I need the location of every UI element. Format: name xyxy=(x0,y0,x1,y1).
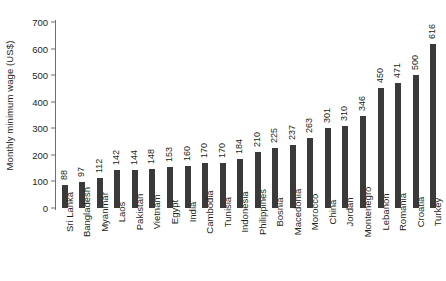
y-axis-tick-labels: 0100200300400500600700 xyxy=(0,0,56,281)
y-axis-tick-label: 700 xyxy=(32,17,48,28)
bar-item[interactable]: 153 xyxy=(161,16,179,208)
x-axis-category-label-slot: Turkey xyxy=(424,210,442,281)
bar-item[interactable]: 225 xyxy=(267,16,285,208)
x-axis-category-label-slot: Philippines xyxy=(249,210,267,281)
bar-chart: Monthly minimum wage (US$) 0100200300400… xyxy=(0,0,446,281)
bar-item[interactable]: 112 xyxy=(91,16,109,208)
bar-value-label: 210 xyxy=(253,132,262,147)
bar-item[interactable]: 301 xyxy=(319,16,337,208)
x-axis-category-label-slot: Myanmar xyxy=(91,210,109,281)
bar-rect[interactable] xyxy=(342,126,348,208)
bar-item[interactable]: 616 xyxy=(424,16,442,208)
bar-item[interactable]: 170 xyxy=(214,16,232,208)
x-axis-category-label-slot: Bosnia xyxy=(267,210,285,281)
x-axis-category-label-slot: Sri Lanka xyxy=(56,210,74,281)
x-axis-category-label-slot: Croatia xyxy=(407,210,425,281)
bar-value-label: 144 xyxy=(130,150,139,165)
bar-item[interactable]: 97 xyxy=(74,16,92,208)
bar-rect[interactable] xyxy=(325,128,331,208)
x-axis-category-label-slot: Cambodia xyxy=(196,210,214,281)
bar-value-label: 310 xyxy=(340,106,349,121)
x-axis-category-label-slot: Indonesia xyxy=(231,210,249,281)
bar-value-label: 301 xyxy=(323,108,332,123)
bar-value-label: 160 xyxy=(183,145,192,160)
bar-item[interactable]: 160 xyxy=(179,16,197,208)
x-axis-category-label-slot: Jordan xyxy=(337,210,355,281)
x-axis-category-label: Turkey xyxy=(433,198,443,227)
x-axis-category-label-slot: India xyxy=(179,210,197,281)
bar-value-label: 225 xyxy=(270,128,279,143)
y-axis-tick-label: 100 xyxy=(32,176,48,187)
x-axis-category-label-slot: Vietnam xyxy=(144,210,162,281)
x-axis-category-label-slot: Laos xyxy=(109,210,127,281)
x-axis-category-label-slot: Lebanon xyxy=(372,210,390,281)
y-axis-tick-label: 500 xyxy=(32,70,48,81)
x-axis-category-label-slot: Bangladesh xyxy=(74,210,92,281)
y-axis-tick-label: 600 xyxy=(32,43,48,54)
bar-item[interactable]: 237 xyxy=(284,16,302,208)
bar-item[interactable]: 210 xyxy=(249,16,267,208)
bar-value-label: 142 xyxy=(112,150,121,165)
bar-value-label: 471 xyxy=(393,63,402,78)
bar-value-label: 263 xyxy=(305,118,314,133)
bar-value-label: 237 xyxy=(288,125,297,140)
x-axis-category-label-slot: Montenegro xyxy=(354,210,372,281)
bar-value-label: 184 xyxy=(235,139,244,154)
bar-value-label: 88 xyxy=(60,170,69,180)
x-axis-category-label-slot: China xyxy=(319,210,337,281)
bar-item[interactable]: 170 xyxy=(196,16,214,208)
bar-value-label: 112 xyxy=(95,159,104,173)
bar-value-label: 97 xyxy=(77,167,86,177)
bar-item[interactable]: 500 xyxy=(407,16,425,208)
x-axis-category-label-slot: Macedonia xyxy=(284,210,302,281)
x-axis-category-label-slot: Tunisia xyxy=(214,210,232,281)
bar-value-label: 500 xyxy=(411,55,420,70)
bar-item[interactable]: 88 xyxy=(56,16,74,208)
bar-item[interactable]: 148 xyxy=(144,16,162,208)
bar-item[interactable]: 184 xyxy=(231,16,249,208)
bar-item[interactable]: 142 xyxy=(109,16,127,208)
x-axis-category-label-slot: Pakistan xyxy=(126,210,144,281)
bar-item[interactable]: 310 xyxy=(337,16,355,208)
y-axis-tick-label: 400 xyxy=(32,96,48,107)
y-axis-tick-label: 200 xyxy=(32,149,48,160)
x-axis-category-labels: Sri LankaBangladeshMyanmarLaosPakistanVi… xyxy=(56,210,442,281)
bar-item[interactable]: 144 xyxy=(126,16,144,208)
bar-item[interactable]: 263 xyxy=(302,16,320,208)
y-axis-tick-label: 300 xyxy=(32,123,48,134)
bar-value-label: 170 xyxy=(200,143,209,158)
bar-rect[interactable] xyxy=(378,88,384,208)
bar-item[interactable]: 346 xyxy=(354,16,372,208)
bar-value-label: 170 xyxy=(218,143,227,158)
x-axis-category-label-slot: Morocco xyxy=(302,210,320,281)
bar-value-label: 450 xyxy=(376,68,385,83)
y-axis-tick-label: 0 xyxy=(43,203,48,214)
bar-value-label: 616 xyxy=(428,24,437,39)
bar-value-label: 148 xyxy=(147,149,156,164)
bar-rect[interactable] xyxy=(395,83,401,208)
bar-value-label: 346 xyxy=(358,96,367,111)
bar-rect[interactable] xyxy=(413,75,419,208)
bar-item[interactable]: 450 xyxy=(372,16,390,208)
x-axis-category-label-slot: Egypt xyxy=(161,210,179,281)
bar-rect[interactable] xyxy=(430,44,436,208)
bar-value-label: 153 xyxy=(165,147,174,162)
bar-item[interactable]: 471 xyxy=(389,16,407,208)
x-axis-category-label-slot: Romania xyxy=(389,210,407,281)
